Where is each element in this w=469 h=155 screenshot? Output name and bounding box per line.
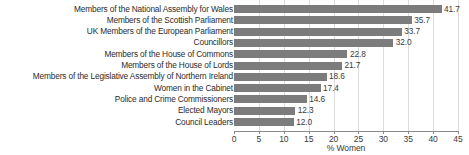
category-label: Police and Crime Commissioners [115, 95, 233, 104]
bar [234, 50, 347, 58]
x-axis-line [234, 131, 458, 132]
bar [234, 16, 412, 24]
bar [234, 39, 393, 47]
bar-chart: Members of the National Assembly for Wal… [0, 0, 469, 155]
bar [234, 28, 402, 36]
bar [234, 118, 294, 126]
bar-row: Members of the National Assembly for Wal… [0, 5, 469, 16]
value-label: 14.6 [309, 95, 325, 104]
bar [234, 62, 342, 70]
x-axis-title: % Women [234, 143, 458, 153]
value-label: 21.7 [345, 61, 361, 70]
value-label: 12.0 [296, 118, 312, 127]
bar-row: Women in the Cabinet17.4 [0, 84, 469, 95]
bar-row: Elected Mayors12.3 [0, 106, 469, 117]
category-label: Members of the House of Lords [121, 61, 233, 70]
value-label: 32.0 [396, 38, 412, 47]
bar-row: Members of the Legislative Assembly of N… [0, 72, 469, 83]
bar-row: Members of the House of Commons22.8 [0, 50, 469, 61]
category-label: Councillors [194, 38, 233, 47]
category-label: Women in the Cabinet [154, 84, 233, 93]
bar [234, 73, 327, 81]
category-label: Members of the National Assembly for Wal… [74, 5, 233, 14]
value-label: 33.7 [404, 27, 420, 36]
category-label: Members of the Scottish Parliament [107, 16, 233, 25]
value-label: 41.7 [444, 5, 460, 14]
bar [234, 84, 321, 92]
value-label: 18.6 [329, 72, 345, 81]
category-label: UK Members of the European Parliament [87, 27, 233, 36]
bar-row: Councillors32.0 [0, 38, 469, 49]
bar-row: Council Leaders12.0 [0, 118, 469, 129]
category-label: Members of the House of Commons [104, 50, 233, 59]
category-label: Elected Mayors [178, 106, 233, 115]
value-label: 17.4 [323, 84, 339, 93]
value-label: 35.7 [414, 16, 430, 25]
bar [234, 5, 442, 13]
bar-row: Police and Crime Commissioners14.6 [0, 95, 469, 106]
category-label: Members of the Legislative Assembly of N… [33, 72, 233, 81]
bar [234, 95, 307, 103]
value-label: 12.3 [298, 106, 314, 115]
category-label: Council Leaders [175, 118, 233, 127]
bar-row: Members of the Scottish Parliament35.7 [0, 16, 469, 27]
value-label: 22.8 [350, 50, 366, 59]
bar [234, 107, 295, 115]
